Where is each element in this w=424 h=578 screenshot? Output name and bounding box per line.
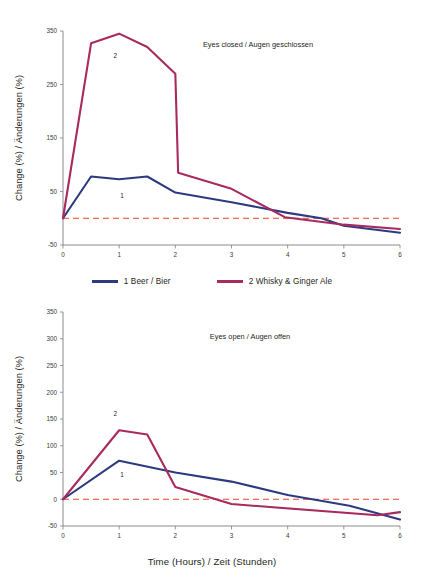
legend-label-beer: 1 Beer / Bier [124,277,171,286]
y-tick-label: 350 [46,308,57,315]
x-tick-label: 3 [230,532,234,539]
x-axis-title: Time (Hours) / Zeit (Stunden) [0,556,424,567]
data-line-whisky-top [63,34,400,229]
y-tick-label: 250 [46,362,57,369]
y-tick-label: 50 [50,469,58,476]
plot-area-bottom: -50050100150200250300350 0123456 1 2 [46,308,402,539]
x-tick-label: 4 [286,532,290,539]
y-tick-label: 100 [46,442,57,449]
series-marker-1-bottom: 1 [120,471,124,478]
y-tick-label: -50 [48,522,58,529]
y-tick-group-bottom: -50050100150200250300350 [46,308,63,529]
plot-area-top: -5050150250350 0123456 1 2 [46,27,402,258]
x-tick-label: 5 [342,251,346,258]
data-line-whisky-bottom [63,430,400,515]
chart-svg-top: -5050150250350 0123456 1 2 Eyes closed /… [0,0,424,268]
y-tick-label: 150 [46,134,57,141]
x-tick-label: 4 [286,251,290,258]
x-tick-label: 2 [174,532,178,539]
x-tick-label: 1 [117,532,121,539]
chart-legend: 1 Beer / Bier 2 Whisky & Ginger Ale [0,268,424,294]
y-axis-title-bottom: Change (%) / Änderungen (%) [13,356,24,482]
legend-entry-whisky: 2 Whisky & Ginger Ale [217,277,333,286]
x-tick-group-bottom: 0123456 [61,526,402,539]
x-tick-label: 6 [398,251,402,258]
y-tick-label: 300 [46,335,57,342]
chart-svg-bottom: -50050100150200250300350 0123456 1 2 Eye… [0,296,424,556]
y-tick-label: 200 [46,389,57,396]
panel-title-eyes-open: Eyes open / Augen offen [210,332,290,341]
panel-title-eyes-closed: Eyes closed / Augen geschlossen [203,40,313,49]
data-line-beer-bottom [63,461,400,520]
x-tick-label: 6 [398,532,402,539]
series-marker-2-top: 2 [113,52,117,59]
x-tick-label: 0 [61,251,65,258]
y-tick-group-top: -5050150250350 [46,27,63,248]
y-tick-label: 150 [46,415,57,422]
x-tick-label: 5 [342,532,346,539]
x-tick-label: 1 [117,251,121,258]
x-tick-group-top: 0123456 [61,245,402,258]
series-marker-1-top: 1 [120,192,124,199]
y-tick-label: 50 [50,188,58,195]
y-tick-label: 350 [46,27,57,34]
x-tick-label: 2 [174,251,178,258]
y-tick-label: -50 [48,241,58,248]
y-axis-title-top: Change (%) / Änderungen (%) [13,75,24,201]
chart-panel-eyes-open: -50050100150200250300350 0123456 1 2 Eye… [0,296,424,556]
figure-root: -5050150250350 0123456 1 2 Eyes closed /… [0,0,424,578]
y-tick-label: 0 [53,496,57,503]
x-tick-label: 0 [61,532,65,539]
legend-swatch-whisky [217,280,243,283]
chart-panel-eyes-closed: -5050150250350 0123456 1 2 Eyes closed /… [0,0,424,268]
x-tick-label: 3 [230,251,234,258]
legend-entry-beer: 1 Beer / Bier [92,277,171,286]
legend-label-whisky: 2 Whisky & Ginger Ale [249,277,333,286]
y-tick-label: 250 [46,81,57,88]
legend-swatch-beer [92,280,118,283]
series-marker-2-bottom: 2 [113,410,117,417]
